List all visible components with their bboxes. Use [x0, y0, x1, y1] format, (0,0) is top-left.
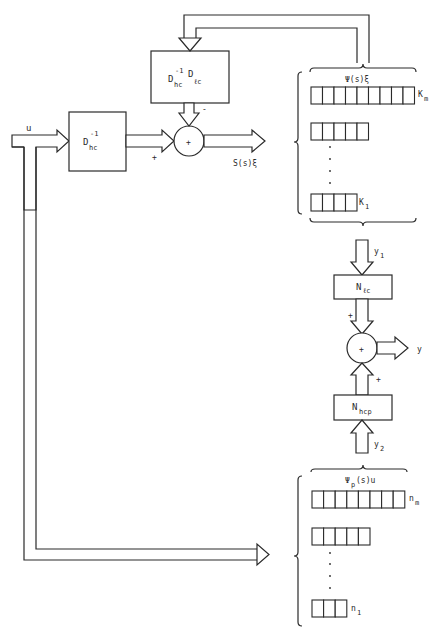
block-dhc-inverse: D -1 hc [69, 112, 126, 171]
arrow-y2 [351, 420, 373, 453]
arrow-dhc-to-sum [126, 130, 174, 152]
svg-text:Ψ: Ψ [345, 476, 350, 485]
block-n-lc: N ℓc [334, 275, 392, 299]
register-row-n1 [312, 600, 347, 617]
svg-text:+: + [376, 375, 381, 384]
svg-text:D: D [168, 74, 173, 84]
svg-text:(s)u: (s)u [356, 476, 375, 485]
block-diagram: u D -1 hc + + S(s)ξ D -1 hc D ℓc - [0, 0, 435, 641]
feedforward-path-u [24, 147, 269, 565]
svg-text:m: m [415, 499, 419, 507]
sum-top-minus-sign: - [202, 105, 207, 114]
svg-text:n: n [409, 494, 414, 503]
output-s-xi-label: S(s)ξ [233, 159, 257, 168]
summing-junction-top: + [174, 126, 204, 156]
svg-text:K: K [359, 198, 364, 207]
svg-text:hcp: hcp [359, 408, 372, 416]
svg-text:ℓc: ℓc [363, 287, 371, 295]
svg-text:K: K [418, 90, 423, 99]
svg-text:y: y [374, 440, 379, 449]
dhc-inv-main: D [83, 137, 88, 147]
svg-text:ℓc: ℓc [194, 78, 202, 86]
svg-text:n: n [351, 604, 356, 613]
svg-text:D: D [188, 69, 193, 79]
input-u-arrow [12, 130, 69, 210]
summing-junction-bottom: + [347, 333, 377, 363]
output-y-label: y [417, 345, 422, 354]
output-arrow-s-xi [204, 130, 265, 152]
dhc-inv-sub: hc [89, 144, 97, 152]
svg-text:+: + [359, 345, 364, 354]
output-arrow-y [377, 337, 408, 359]
input-u-label: u [26, 123, 31, 133]
arrow-feedback-to-sum [179, 103, 199, 126]
dhc-inv-sup: -1 [90, 130, 98, 138]
svg-text:m: m [424, 95, 428, 103]
svg-text:1: 1 [357, 609, 361, 617]
upper-register-stack: Ψ(s)ξ K m [294, 64, 428, 226]
svg-text:p: p [351, 481, 355, 489]
block-feedback: D -1 hc D ℓc [151, 51, 229, 103]
svg-text:-1: -1 [175, 67, 183, 75]
register-row-lower-2 [312, 528, 370, 545]
arrow-nhcp-to-sum [351, 363, 373, 395]
svg-text:2: 2 [380, 445, 384, 453]
block-n-hcp: N hcp [334, 395, 392, 420]
register-row-km [311, 87, 415, 104]
svg-text:+: + [348, 311, 353, 320]
lower-register-stack: Ψ p (s)u n m [294, 465, 419, 626]
svg-text:1: 1 [380, 252, 384, 260]
arrow-y1 [351, 240, 373, 275]
sum-top-plus-sign: + [152, 153, 157, 162]
register-row-nm [312, 491, 405, 508]
svg-text:N: N [356, 282, 361, 292]
register-row-k1 [311, 194, 357, 211]
svg-text:+: + [186, 138, 191, 147]
arrow-nlc-to-sum [351, 299, 373, 334]
svg-text:y: y [374, 247, 379, 256]
upper-stack-title: Ψ(s)ξ [345, 75, 369, 84]
register-row-2 [311, 123, 369, 140]
svg-text:1: 1 [365, 203, 369, 211]
svg-text:hc: hc [174, 81, 182, 89]
svg-text:N: N [352, 402, 357, 412]
